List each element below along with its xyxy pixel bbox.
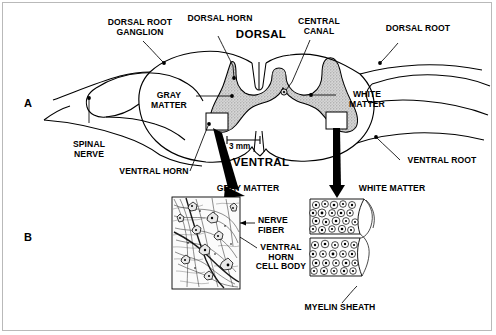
arrow-to-white-micrograph — [329, 128, 345, 198]
panel-letter-a: A — [24, 97, 32, 109]
label-ventral: VENTRAL — [226, 158, 296, 168]
micrograph-white-matter — [310, 199, 375, 276]
figure-spinal-cord: A B DORSAL ROOT GANGLION DORSAL HORN DOR… — [0, 0, 496, 335]
label-white-matter: WHITE MATTER — [338, 90, 396, 109]
inset-box-white-matter — [326, 112, 347, 129]
label-dorsal: DORSAL — [228, 30, 294, 40]
dorsal-median-sulcus — [252, 62, 266, 90]
label-nerve-fiber: NERVE FIBER — [258, 216, 306, 235]
panel-letter-b: B — [24, 231, 32, 243]
label-gray-matter: GRAY MATTER — [140, 91, 198, 110]
label-ventral-horn: VENTRAL HORN — [110, 167, 198, 177]
label-myelin-sheath: MYELIN SHEATH — [288, 303, 392, 313]
label-ventral-root: VENTRAL ROOT — [396, 156, 488, 166]
label-b-gray-matter: GRAY MATTER — [205, 184, 291, 194]
label-ventral-horn-cell-body: VENTRAL HORN CELL BODY — [250, 243, 312, 272]
inset-box-gray-matter — [206, 113, 228, 130]
label-b-white-matter: WHITE MATTER — [346, 184, 438, 194]
label-scale-bar: 3 mm — [229, 142, 250, 151]
ventral-median-fissure — [254, 131, 264, 152]
spinal-nerve-left — [44, 106, 70, 120]
label-dorsal-root: DORSAL ROOT — [370, 24, 466, 34]
label-central-canal: CENTRAL CANAL — [288, 17, 350, 36]
label-spinal-nerve: SPINAL NERVE — [60, 140, 118, 159]
label-dorsal-horn: DORSAL HORN — [168, 14, 272, 24]
micrograph-gray-matter — [172, 197, 240, 289]
